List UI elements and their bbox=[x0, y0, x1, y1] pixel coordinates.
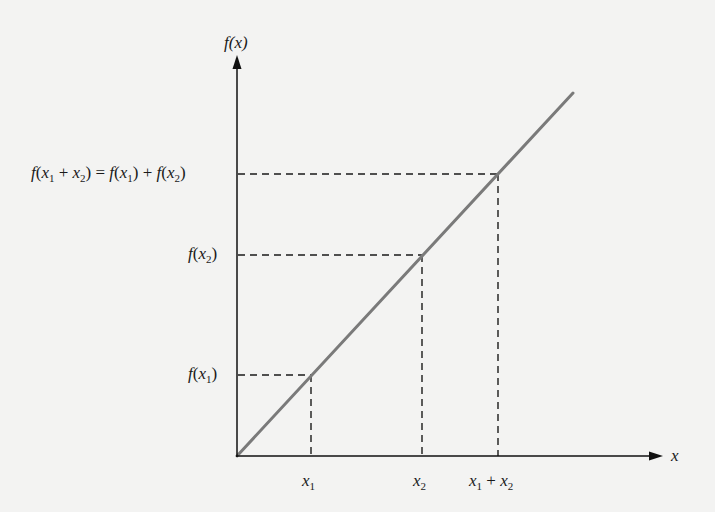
function-line bbox=[237, 93, 573, 456]
x-label-x2: x2 bbox=[413, 472, 426, 492]
y-axis-label: f(x) bbox=[224, 34, 248, 51]
x-label-x1: x1 bbox=[302, 472, 315, 492]
diagram-canvas bbox=[0, 0, 715, 512]
x-axis-label: x bbox=[671, 447, 679, 464]
y-label-f-x1: f(x1) bbox=[188, 365, 217, 385]
y-axis-arrow-icon bbox=[233, 55, 242, 69]
x-axis-arrow-icon bbox=[649, 452, 663, 461]
y-label-f-sum: f(x1 + x2) = f(x1) + f(x2) bbox=[31, 164, 186, 184]
y-label-f-x2: f(x2) bbox=[188, 245, 217, 265]
x-label-x1-plus-x2: x1 + x2 bbox=[469, 472, 513, 492]
